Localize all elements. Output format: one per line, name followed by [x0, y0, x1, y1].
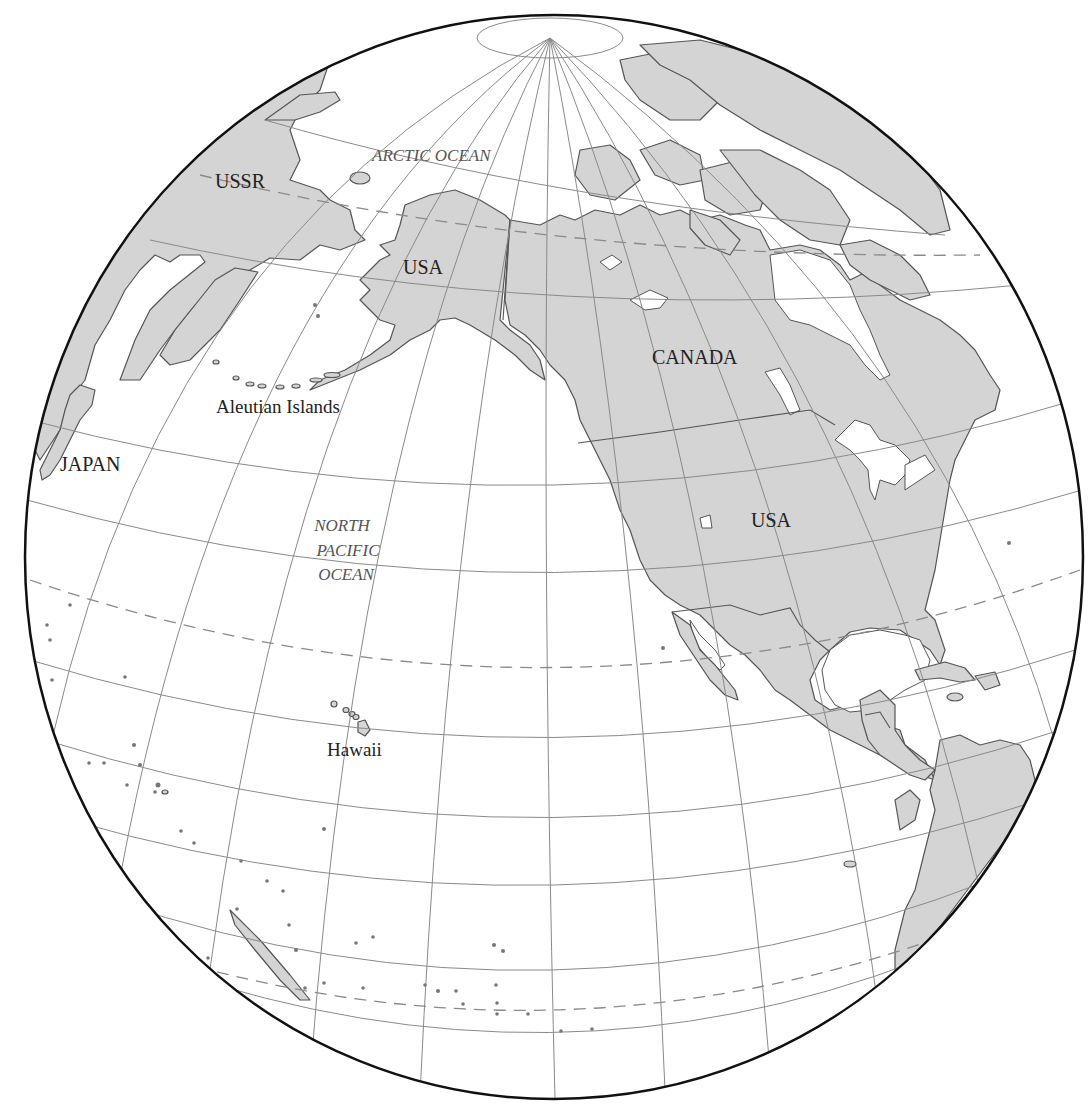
label-japan: JAPAN [60, 453, 120, 475]
label-ussr: USSR [215, 170, 266, 192]
label-arctic-ocean: ARCTIC OCEAN [371, 146, 492, 165]
label-aleutian-islands: Aleutian Islands [216, 396, 340, 417]
label-north-pacific-3: OCEAN [318, 565, 375, 584]
label-usa-mainland: USA [751, 509, 792, 531]
label-canada: CANADA [652, 346, 738, 368]
globe-map: USSR USA CANADA USA JAPAN Aleutian Islan… [0, 0, 1092, 1109]
label-north-pacific: NORTH [313, 516, 371, 535]
label-usa-alaska: USA [403, 256, 444, 278]
label-hawaii: Hawaii [327, 739, 382, 760]
label-north-pacific-2: PACIFIC [316, 541, 381, 560]
